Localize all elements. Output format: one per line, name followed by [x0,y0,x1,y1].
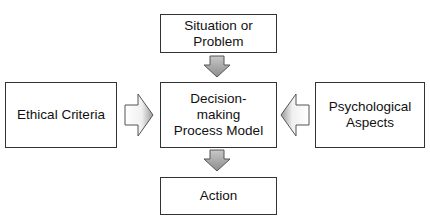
arrow-down-icon [203,150,231,172]
node-label-line: making [174,107,263,123]
node-label-line: Decision- [174,91,263,107]
arrow-right-icon [124,93,154,137]
arrow-left-icon [280,93,310,137]
node-label-line: Situation or [184,18,252,34]
node-label-line: Process Model [174,123,263,139]
node-label-line: Problem [184,34,252,50]
node-label-line: Ethical Criteria [17,107,105,123]
arrow-down-icon [203,56,231,78]
node-action: Action [160,177,277,215]
node-psychological-aspects: Psychological Aspects [315,82,425,148]
node-label-line: Aspects [329,115,412,131]
node-situation-or-problem: Situation or Problem [160,14,277,53]
node-label-line: Action [200,188,238,204]
node-decision-making-process-model: Decision- making Process Model [160,82,277,148]
node-ethical-criteria: Ethical Criteria [5,82,117,148]
node-label-line: Psychological [329,99,412,115]
